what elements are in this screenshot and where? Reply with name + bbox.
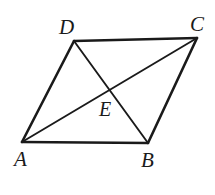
diagonal-DB bbox=[74, 41, 148, 143]
vertex-label-C: C bbox=[190, 14, 204, 35]
side-BC bbox=[148, 38, 197, 143]
vertex-label-D: D bbox=[59, 17, 74, 38]
side-AB bbox=[22, 142, 148, 143]
vertex-label-A: A bbox=[14, 149, 27, 170]
side-CD bbox=[74, 38, 197, 41]
vertex-label-B: B bbox=[141, 150, 154, 171]
vertex-label-E: E bbox=[99, 99, 111, 119]
geometry-figure: D C E A B bbox=[0, 0, 215, 195]
